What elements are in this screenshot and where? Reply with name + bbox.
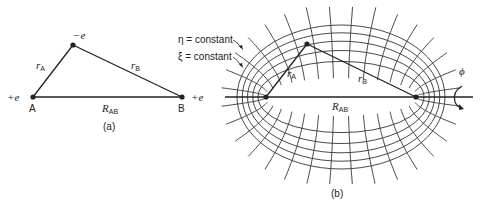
- eta-constant-hyperbola: [378, 14, 398, 80]
- r-ab-main-b: R: [332, 100, 339, 112]
- left-charge-label: +e: [7, 92, 19, 103]
- r-a-sub-b: A: [291, 73, 296, 80]
- caption-b: (b): [331, 189, 343, 199]
- eta-constant-hyperbola: [378, 114, 398, 180]
- nucleus-b-label: B: [178, 104, 185, 114]
- electron-dot: [70, 42, 75, 47]
- r-a-sub: A: [40, 65, 45, 72]
- eta-constant-hyperbola: [284, 114, 304, 180]
- caption-a: (a): [103, 122, 115, 132]
- r-b-label: rB: [131, 60, 140, 72]
- eta-constant-hyperbola: [349, 7, 353, 78]
- eta-constant-hyperbola: [330, 116, 334, 184]
- elliptic-grid: [222, 7, 461, 184]
- r-b-label-b: rB: [358, 73, 367, 85]
- eta-constant-hyperbola: [330, 7, 334, 78]
- focus-a-dot: [263, 94, 268, 99]
- r-ab-label-b: RAB: [332, 101, 348, 113]
- rotation-arrowhead: [459, 104, 464, 110]
- eta-constant-hyperbola: [349, 116, 353, 184]
- nucleus-a-dot: [30, 94, 35, 99]
- r-b-sub: B: [135, 65, 140, 72]
- focus-b-dot: [413, 94, 418, 99]
- r-b-line: [73, 45, 182, 97]
- xi-constant-label: ξ = constant: [178, 52, 232, 62]
- phi-label: ϕ: [459, 66, 465, 77]
- r-a-label-b: rA: [287, 68, 296, 80]
- eta-constant-label: η = constant: [178, 35, 233, 45]
- nucleus-a-label: A: [29, 104, 36, 114]
- right-charge-label: +e: [191, 92, 203, 103]
- r-ab-sub-b: AB: [339, 106, 348, 113]
- r-a-label: rA: [36, 60, 45, 72]
- r-ab-main: R: [102, 102, 109, 114]
- r-ab-label: RAB: [102, 103, 118, 115]
- nucleus-b-dot: [179, 94, 184, 99]
- electron-dot-b: [304, 41, 309, 46]
- r-b-sub-b: B: [362, 78, 367, 85]
- panel-a-triangle: [33, 45, 182, 97]
- r-ab-sub: AB: [109, 108, 118, 115]
- top-charge-label: −e: [73, 30, 85, 41]
